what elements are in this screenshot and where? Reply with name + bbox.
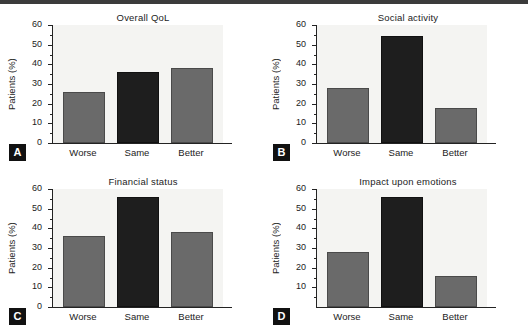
panel-a-ytick-60: 60	[48, 25, 53, 26]
panel-d-ytick-30: 30	[312, 248, 317, 249]
panel-c-ytick-60: 60	[48, 189, 53, 190]
panel-c: Financial status Patients (%) 0 10 20 30…	[0, 168, 264, 336]
panel-b-xlabel-worse: Worse	[333, 147, 360, 158]
panel-a-ytick-30: 30	[48, 84, 53, 85]
panel-a-ytick-minor-15	[50, 114, 53, 115]
panel-c-ytick-label-30: 30	[32, 242, 42, 253]
panel-a-x-axis	[52, 143, 232, 144]
panel-d: Impact upon emotions Patients (%) 10 20 …	[264, 168, 528, 336]
panel-d-bar-same	[381, 197, 423, 307]
panel-a-bar-same	[117, 72, 159, 143]
panel-b-ytick-label-20: 20	[296, 98, 306, 109]
panel-d-ytick-minor-5	[314, 297, 317, 298]
panel-c-bar-same	[117, 197, 159, 307]
panel-a: Overall QoL Patients (%) 0 10 20 30 40 5…	[0, 4, 264, 172]
panel-b-ytick-minor-45	[314, 55, 317, 56]
panel-d-xlabel-same: Same	[389, 311, 414, 322]
panel-c-ytick-label-0: 0	[37, 301, 42, 312]
panel-a-ytick-label-40: 40	[32, 58, 42, 69]
panel-c-xlabel-same: Same	[125, 311, 150, 322]
panel-c-ytick-minor-35	[50, 238, 53, 239]
panel-c-bar-better	[171, 232, 213, 307]
panel-d-ytick-minor-25	[314, 258, 317, 259]
panel-c-x-axis	[52, 307, 232, 308]
panel-b-bar-better	[435, 108, 477, 143]
panel-b-ytick-minor-15	[314, 114, 317, 115]
panel-c-ytick-minor-55	[50, 199, 53, 200]
panel-d-ytick-20: 20	[312, 268, 317, 269]
panel-d-xlabel-worse: Worse	[333, 311, 360, 322]
panel-c-xlabel-worse: Worse	[69, 311, 96, 322]
panel-d-x-axis	[316, 307, 496, 308]
panel-c-ytick-minor-45	[50, 219, 53, 220]
panel-a-ytick-minor-45	[50, 55, 53, 56]
panel-b-ytick-30: 30	[312, 84, 317, 85]
panel-a-ytick-minor-25	[50, 94, 53, 95]
panel-d-ytick-label-20: 20	[296, 262, 306, 273]
panel-a-bar-better	[171, 68, 213, 143]
panel-a-ytick-minor-55	[50, 35, 53, 36]
panel-b-ytick-20: 20	[312, 104, 317, 105]
panel-b-ytick-label-30: 30	[296, 78, 306, 89]
panel-c-ytick-label-50: 50	[32, 203, 42, 214]
panel-c-ytick-40: 40	[48, 228, 53, 229]
panel-a-ytick-10: 10	[48, 123, 53, 124]
panel-b-ytick-minor-35	[314, 74, 317, 75]
panel-a-ytick-label-0: 0	[37, 137, 42, 148]
panel-a-x-tick-labels: Worse Same Better	[52, 147, 232, 163]
panel-a-ytick-label-10: 10	[32, 117, 42, 128]
panel-c-ytick-label-60: 60	[32, 183, 42, 194]
panel-b-ytick-40: 40	[312, 64, 317, 65]
panel-c-ytick-10: 10	[48, 287, 53, 288]
panel-a-ytick-50: 50	[48, 45, 53, 46]
panel-d-x-tick-labels: Worse Same Better	[316, 311, 496, 327]
panel-d-y-axis-label: Patients (%)	[268, 192, 282, 304]
panel-d-bar-worse	[327, 252, 369, 307]
panel-c-ytick-label-10: 10	[32, 281, 42, 292]
panel-c-ytick-minor-25	[50, 258, 53, 259]
panel-b-ytick-minor-25	[314, 94, 317, 95]
panel-c-x-tick-labels: Worse Same Better	[52, 311, 232, 327]
panel-b-ytick-minor-55	[314, 35, 317, 36]
panel-d-ytick-label-40: 40	[296, 222, 306, 233]
panel-d-ytick-label-60: 60	[296, 183, 306, 194]
panel-d-ytick-40: 40	[312, 228, 317, 229]
panel-a-ytick-minor-35	[50, 74, 53, 75]
panel-c-letter-badge: C	[9, 308, 26, 325]
panel-d-ytick-label-50: 50	[296, 203, 306, 214]
panel-b-ytick-label-40: 40	[296, 58, 306, 69]
panel-b-xlabel-better: Better	[442, 147, 467, 158]
panel-d-ytick-10: 10	[312, 287, 317, 288]
panel-a-bar-worse	[63, 92, 105, 143]
panel-a-xlabel-same: Same	[125, 147, 150, 158]
panel-d-ytick-label-30: 30	[296, 242, 306, 253]
panel-a-ytick-20: 20	[48, 104, 53, 105]
panel-d-ytick-minor-35	[314, 238, 317, 239]
panel-d-letter-badge: D	[273, 308, 290, 325]
panel-a-ytick-label-20: 20	[32, 98, 42, 109]
panel-b-ytick-minor-5	[314, 133, 317, 134]
panel-d-ytick-label-10: 10	[296, 281, 306, 292]
panel-b-bar-worse	[327, 88, 369, 143]
panel-b-letter-badge: B	[273, 144, 290, 161]
panel-a-ytick-label-50: 50	[32, 39, 42, 50]
panel-c-ytick-minor-15	[50, 278, 53, 279]
panel-c-xlabel-better: Better	[178, 311, 203, 322]
panel-a-plot-area: 0 10 20 30 40 50 60	[52, 25, 223, 143]
panel-c-ytick-label-40: 40	[32, 222, 42, 233]
panel-c-ytick-50: 50	[48, 209, 53, 210]
panel-b-plot-area: 0 10 20 30 40 50 60	[316, 25, 487, 143]
panel-b-x-axis	[316, 143, 496, 144]
panel-b-ytick-label-60: 60	[296, 19, 306, 30]
panel-a-y-axis-label: Patients (%)	[4, 28, 18, 140]
panel-a-ytick-minor-5	[50, 133, 53, 134]
panel-c-ytick-minor-5	[50, 297, 53, 298]
panel-d-ytick-minor-55	[314, 199, 317, 200]
panel-d-plot-area: 10 20 30 40 50 60	[316, 189, 487, 307]
panel-c-ytick-30: 30	[48, 248, 53, 249]
figure-panel-grid: Overall QoL Patients (%) 0 10 20 30 40 5…	[0, 4, 528, 336]
panel-b-bar-same	[381, 36, 423, 143]
panel-c-y-axis-label: Patients (%)	[4, 192, 18, 304]
panel-d-ytick-minor-15	[314, 278, 317, 279]
panel-c-ytick-20: 20	[48, 268, 53, 269]
